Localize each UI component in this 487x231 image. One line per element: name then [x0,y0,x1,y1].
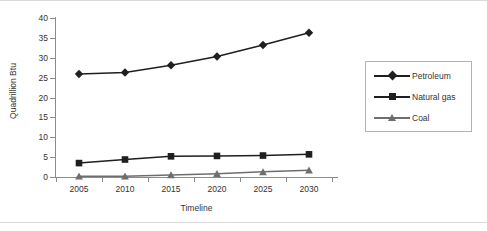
data-point-marker [260,152,267,159]
data-point-marker [259,41,267,49]
data-point-marker [75,70,83,78]
data-point-marker [213,52,221,60]
legend-item-natural-gas[interactable]: Natural gas [366,87,473,107]
data-point-marker [306,151,313,158]
data-point-marker [305,29,313,37]
legend-item-label: Natural gas [412,92,455,102]
series-line [79,170,309,176]
data-point-marker [76,160,83,167]
legend-item-label: Petroleum [412,71,451,81]
series-petroleum [75,29,313,79]
chart-legend: PetroleumNatural gasCoal [365,61,472,132]
legend-swatch-icon [372,90,412,104]
legend-item-petroleum[interactable]: Petroleum [366,66,473,86]
series-natural-gas [76,151,313,166]
line-chart: 0510152025303540 20052010201520202025203… [0,0,360,231]
legend-marker-square-icon [389,93,396,100]
data-point-marker [121,68,129,76]
series-line [79,154,309,163]
legend-swatch-icon [372,69,412,83]
legend-swatch-icon [372,111,412,125]
legend-marker-triangle-icon [388,114,396,121]
series-coal [75,167,313,180]
legend-item-label: Coal [412,113,429,123]
legend-item-coal[interactable]: Coal [366,108,473,128]
data-point-marker [168,153,175,160]
data-point-marker [214,153,221,160]
data-point-marker [167,61,175,69]
series-line [79,33,309,74]
data-point-marker [122,156,129,163]
chart-page: 0510152025303540 20052010201520202025203… [0,0,487,231]
legend-marker-diamond-icon [388,71,398,81]
